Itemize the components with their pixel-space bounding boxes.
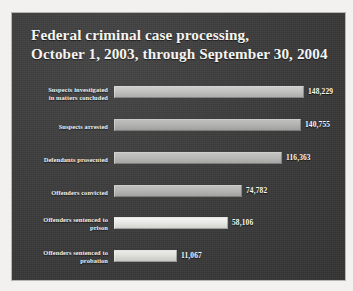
bar-category-label-line: in matters concluded <box>12 94 108 102</box>
bar-rect <box>114 119 301 131</box>
figure-canvas: Federal criminal case processing, Octobe… <box>0 0 353 291</box>
bar-track: 11,067 <box>114 245 345 269</box>
bar-value-label: 116,363 <box>286 152 311 164</box>
bar-category-label-line: Suspects investigated <box>12 86 108 94</box>
bar-track: 74,782 <box>114 182 345 203</box>
bar-category-label: Suspects investigated in matters conclud… <box>12 86 114 101</box>
bar-value-label: 140,755 <box>305 119 330 131</box>
bar-row: Defendants prosecuted 116,363 <box>12 149 345 170</box>
chart-title-line-2: October 1, 2003, through September 30, 2… <box>31 44 331 63</box>
bar-track: 140,755 <box>114 116 345 137</box>
bar-category-label: Defendants prosecuted <box>12 156 114 164</box>
bar-category-label: Offenders convicted <box>12 189 114 197</box>
chart-title-line-1: Federal criminal case processing, <box>31 25 331 44</box>
bar-rect <box>114 86 304 98</box>
bar-track: 58,106 <box>114 212 345 236</box>
bar-category-label-line: Offenders sentenced to <box>12 216 108 224</box>
bar-value-label: 148,229 <box>308 86 333 98</box>
bar-rect <box>114 217 228 229</box>
bar-chart: Suspects investigated in matters conclud… <box>12 83 345 273</box>
bar-row: Offenders sentenced to prison 58,106 <box>12 212 345 236</box>
bar-rect <box>114 152 282 164</box>
bar-category-label-line: Offenders convicted <box>12 189 108 197</box>
bar-track: 116,363 <box>114 149 345 170</box>
bar-value-label: 11,067 <box>181 250 202 262</box>
bar-category-label-line: Defendants prosecuted <box>12 156 108 164</box>
bar-category-label: Offenders sentenced to probation <box>12 249 114 264</box>
bar-row: Offenders sentenced to probation 11,067 <box>12 245 345 269</box>
bar-row: Suspects arrested 140,755 <box>12 116 345 137</box>
bar-row: Offenders convicted 74,782 <box>12 182 345 203</box>
bar-category-label: Suspects arrested <box>12 123 114 131</box>
bar-value-label: 58,106 <box>232 217 253 229</box>
chart-title: Federal criminal case processing, Octobe… <box>31 25 331 63</box>
bar-rect <box>114 185 242 197</box>
bar-row: Suspects investigated in matters conclud… <box>12 83 345 104</box>
chart-panel: Federal criminal case processing, Octobe… <box>12 13 345 280</box>
bar-category-label-line: Offenders sentenced to <box>12 249 108 257</box>
bar-rect <box>114 250 177 262</box>
bar-category-label-line: probation <box>12 257 108 265</box>
bar-category-label-line: Suspects arrested <box>12 123 108 131</box>
bar-track: 148,229 <box>114 83 345 104</box>
bar-category-label: Offenders sentenced to prison <box>12 216 114 231</box>
bar-category-label-line: prison <box>12 224 108 232</box>
bar-value-label: 74,782 <box>246 185 267 197</box>
